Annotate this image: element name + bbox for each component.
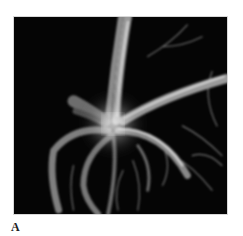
vessel-rendering — [14, 17, 227, 214]
panel-label: A — [11, 220, 20, 235]
angiography-image — [13, 16, 228, 215]
